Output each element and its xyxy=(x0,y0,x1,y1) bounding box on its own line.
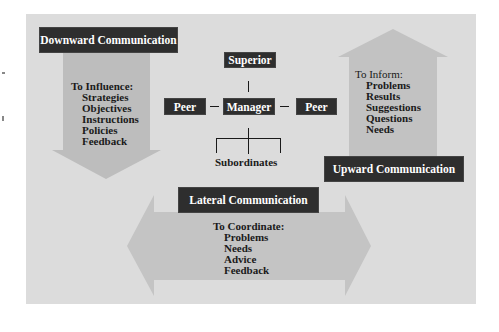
downward-communication-title: Downward Communication xyxy=(39,27,178,53)
lateral-item: Feedback xyxy=(213,265,284,276)
connector-peer-right xyxy=(280,106,289,107)
connector-subordinates-bar xyxy=(216,138,281,139)
connector-sub-right xyxy=(280,138,281,153)
subordinates-label: Subordinates xyxy=(215,156,277,168)
scan-mark xyxy=(2,72,5,74)
peer-right-label: Peer xyxy=(305,101,327,113)
scan-mark xyxy=(2,116,4,121)
upward-list: To Inform: Problems Results Suggestions … xyxy=(355,69,421,135)
superior-box: Superior xyxy=(224,52,276,68)
lateral-title-text: Lateral Communication xyxy=(189,194,308,206)
downward-item: Feedback xyxy=(71,136,139,147)
connector-superior-manager xyxy=(248,81,249,92)
superior-label: Superior xyxy=(228,54,271,66)
upward-communication-title: Upward Communication xyxy=(324,156,464,182)
lateral-communication-title: Lateral Communication xyxy=(178,187,319,213)
lateral-list: To Coordinate: Problems Needs Advice Fee… xyxy=(213,221,284,276)
manager-box: Manager xyxy=(223,98,275,115)
connector-sub-left xyxy=(216,138,217,153)
downward-title-text: Downward Communication xyxy=(40,34,176,46)
peer-left-label: Peer xyxy=(174,101,196,113)
peer-left-box: Peer xyxy=(164,98,206,115)
peer-right-box: Peer xyxy=(296,98,337,115)
connector-manager-down xyxy=(248,128,249,154)
connector-peer-left xyxy=(210,106,219,107)
upward-title-text: Upward Communication xyxy=(333,163,455,175)
upward-item: Needs xyxy=(355,124,421,135)
manager-label: Manager xyxy=(227,101,272,113)
downward-list: To Influence: Strategies Objectives Inst… xyxy=(71,81,139,147)
